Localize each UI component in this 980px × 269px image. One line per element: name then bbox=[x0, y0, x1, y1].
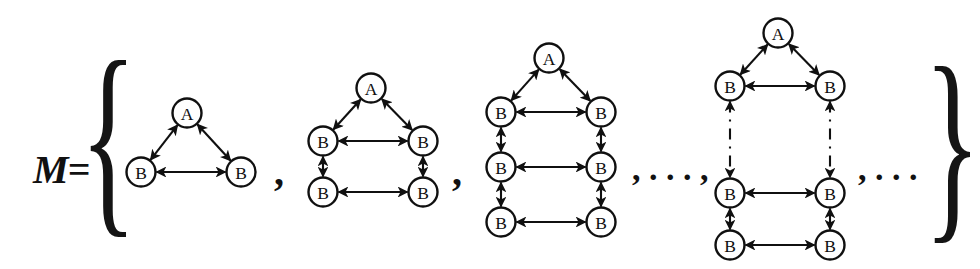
node-label-b: B bbox=[417, 132, 429, 152]
node-label-b: B bbox=[595, 158, 607, 178]
node-label-b: B bbox=[235, 163, 247, 183]
node-label-b: B bbox=[135, 163, 147, 183]
node-label-b: B bbox=[495, 158, 507, 178]
node-label-b: B bbox=[724, 77, 736, 97]
edge-bidirectional bbox=[789, 44, 819, 75]
figure-canvas: M= { } , , , . . . , , . . . ABBABBBBABB… bbox=[0, 0, 980, 269]
node-label-b: B bbox=[495, 103, 507, 123]
edge-bidirectional bbox=[511, 70, 538, 101]
node-label-b: B bbox=[824, 184, 836, 204]
edge-bidirectional bbox=[151, 125, 178, 160]
node-label-b: B bbox=[724, 236, 736, 256]
node-label-a: A bbox=[543, 49, 556, 69]
edge-bidirectional bbox=[197, 124, 230, 160]
edge-bidirectional bbox=[560, 69, 591, 101]
node-label-a: A bbox=[181, 104, 194, 124]
node-label-b: B bbox=[724, 184, 736, 204]
node-label-b: B bbox=[595, 103, 607, 123]
node-label-b: B bbox=[317, 132, 329, 152]
graph-layer: ABBABBBBABBBBBBABBBBBB bbox=[0, 0, 980, 269]
edge-bidirectional bbox=[382, 99, 412, 130]
node-label-b: B bbox=[417, 183, 429, 203]
edge-bidirectional bbox=[333, 99, 360, 129]
graph-nodes-group: ABBABBBBABBBBBBABBBBBB bbox=[127, 19, 845, 260]
node-label-b: B bbox=[824, 236, 836, 256]
edge-bidirectional bbox=[740, 44, 767, 74]
node-label-a: A bbox=[365, 79, 378, 99]
node-label-b: B bbox=[824, 77, 836, 97]
node-label-b: B bbox=[317, 183, 329, 203]
node-label-a: A bbox=[772, 24, 785, 44]
node-label-b: B bbox=[495, 213, 507, 233]
node-label-b: B bbox=[595, 213, 607, 233]
